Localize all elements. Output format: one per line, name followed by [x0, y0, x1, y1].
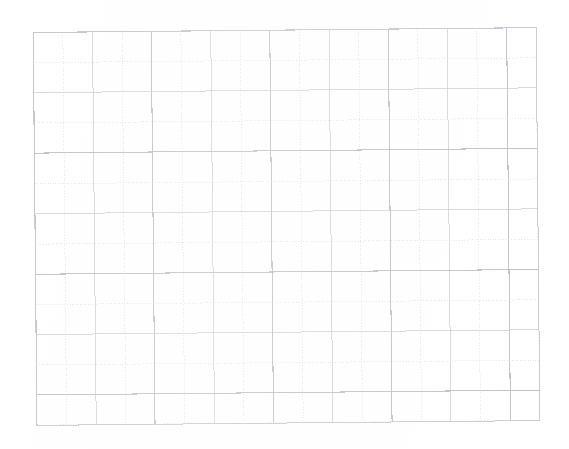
graph-paper-grid — [27, 22, 546, 431]
screenshot-canvas — [0, 0, 569, 449]
grid-lines-svg — [27, 22, 546, 431]
paper-sheet — [0, 0, 569, 449]
